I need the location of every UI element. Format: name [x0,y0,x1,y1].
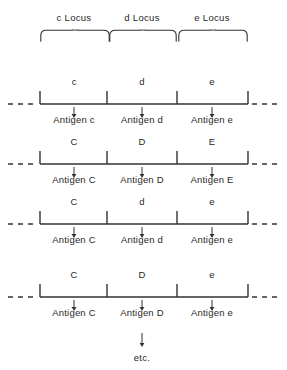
allele-label: d [117,76,167,87]
allele-label: e [187,269,237,280]
allele-label: C [49,269,99,280]
antigen-label: Antigen c [39,114,109,125]
antigen-label: Antigen E [177,174,247,185]
chromosome-row: CdeAntigen CAntigen dAntigen e [0,196,287,252]
etc-arrow-icon [132,332,152,348]
locus-brace-1 [40,29,110,43]
antigen-label: Antigen e [177,234,247,245]
antigen-label: Antigen D [107,307,177,318]
allele-label: c [49,76,99,87]
allele-label: d [117,196,167,207]
allele-label: e [187,196,237,207]
allele-label: E [187,136,237,147]
locus-label-3: e Locus [162,12,262,23]
antigen-label: Antigen C [39,174,109,185]
antigen-label: Antigen d [107,114,177,125]
allele-label: C [49,136,99,147]
locus-brace-3 [178,29,248,43]
chromosome-row: CDeAntigen CAntigen DAntigen e [0,269,287,325]
allele-label: D [117,136,167,147]
antigen-label: Antigen C [39,307,109,318]
antigen-label: Antigen e [177,307,247,318]
antigen-label: Antigen D [107,174,177,185]
chromosome-row: CDEAntigen CAntigen DAntigen E [0,136,287,192]
chromosome-row: cdeAntigen cAntigen dAntigen e [0,76,287,132]
allele-label: C [49,196,99,207]
allele-label: D [117,269,167,280]
locus-diagram: c Locusd Locuse Locus cdeAntigen cAntige… [0,0,287,370]
etc-label: etc. [102,352,182,363]
antigen-label: Antigen d [107,234,177,245]
locus-brace-2 [109,29,177,43]
allele-label: e [187,76,237,87]
antigen-label: Antigen C [39,234,109,245]
antigen-label: Antigen e [177,114,247,125]
